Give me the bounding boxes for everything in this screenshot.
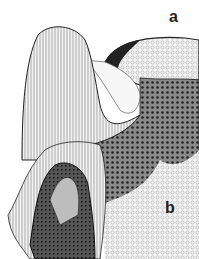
illustration-drawing (0, 0, 199, 259)
label-a: a (169, 9, 178, 25)
histology-illustration: a b (0, 0, 199, 259)
label-b: b (165, 200, 175, 216)
